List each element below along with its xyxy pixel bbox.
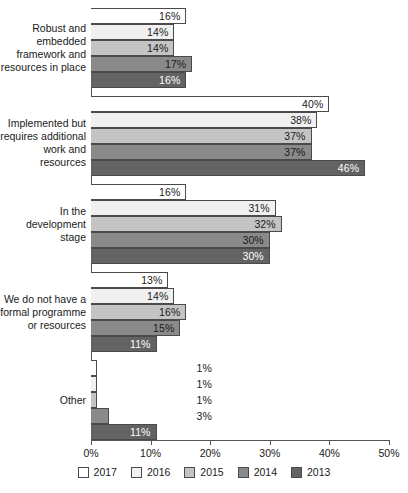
x-axis-tick (329, 440, 330, 445)
bar-value-label: 14% (91, 288, 174, 304)
bar-row: 14% (91, 24, 389, 40)
category-label-line: work and resources (0, 143, 86, 169)
bar-value-label: 13% (91, 272, 168, 288)
bar-value-label: 16% (91, 72, 186, 88)
bar-value-label: 16% (91, 8, 186, 24)
x-axis-line (91, 440, 389, 441)
x-axis-tick-label: 50% (378, 447, 399, 459)
category-label-line: requires additional (0, 130, 86, 143)
bar-value-label: 38% (91, 112, 317, 128)
x-axis-tick-label: 10% (140, 447, 161, 459)
bar-value-label: 1% (197, 376, 212, 392)
bar-value-label: 37% (91, 128, 312, 144)
bar-row: 15% (91, 320, 389, 336)
bar-row: 30% (91, 232, 389, 248)
bar-group: 16%31%32%30%30% (91, 184, 389, 264)
bar-row: 13% (91, 272, 389, 288)
bar-2017 (91, 360, 97, 376)
bar-value-label: 30% (91, 248, 270, 264)
bar-2015 (91, 392, 97, 408)
bar-group: 16%14%14%17%16% (91, 8, 389, 88)
plot-area: 16%14%14%17%16%40%38%37%37%46%16%31%32%3… (91, 8, 389, 440)
bar-row: 16% (91, 184, 389, 200)
bar-row: 11% (91, 424, 389, 440)
category-label-line: development (0, 218, 86, 231)
bar-row: 37% (91, 144, 389, 160)
category-label-line: formal programme (0, 306, 86, 319)
bar-group: 40%38%37%37%46% (91, 96, 389, 176)
bar-row: 16% (91, 8, 389, 24)
bar-row: 14% (91, 40, 389, 56)
category-label-line: stage (0, 231, 86, 244)
bar-value-label: 16% (91, 304, 186, 320)
bar-row: 31% (91, 200, 389, 216)
x-axis-tick-label: 30% (259, 447, 280, 459)
bar-value-label: 1% (197, 392, 212, 408)
legend-item-2013[interactable]: 2013 (291, 466, 330, 478)
bar-row: 1% (91, 360, 389, 376)
bar-row: 38% (91, 112, 389, 128)
bar-2016 (91, 376, 97, 392)
x-axis-tick (270, 440, 271, 445)
legend-item-2015[interactable]: 2015 (184, 466, 223, 478)
legend-item-2014[interactable]: 2014 (238, 466, 277, 478)
category-label-line: Implemented but (0, 117, 86, 130)
bar-value-label: 11% (91, 424, 157, 440)
category-label: Other (0, 394, 86, 407)
bar-value-label: 46% (91, 160, 365, 176)
bar-value-label: 31% (91, 200, 276, 216)
x-axis-tick (210, 440, 211, 445)
category-label-line: We do not have a (0, 293, 86, 306)
x-axis-tick (91, 440, 92, 445)
bar-group: 1%1%1%3%11% (91, 360, 389, 440)
bar-value-label: 30% (91, 232, 270, 248)
bar-row: 1% (91, 392, 389, 408)
category-label-line: framework and (0, 48, 86, 61)
chart-legend: 20172016201520142013 (0, 466, 408, 478)
legend-label: 2017 (94, 466, 117, 478)
legend-label: 2013 (307, 466, 330, 478)
bar-row: 46% (91, 160, 389, 176)
x-axis-tick (389, 440, 390, 445)
bar-value-label: 37% (91, 144, 312, 160)
legend-swatch-icon (184, 467, 195, 478)
bar-value-label: 11% (91, 336, 157, 352)
legend-item-2016[interactable]: 2016 (131, 466, 170, 478)
legend-swatch-icon (291, 467, 302, 478)
category-label-line: embedded (0, 35, 86, 48)
legend-label: 2016 (147, 466, 170, 478)
x-axis-tick (151, 440, 152, 445)
bar-row: 16% (91, 72, 389, 88)
legend-item-2017[interactable]: 2017 (78, 466, 117, 478)
category-label-line: resources in place (0, 61, 86, 74)
bar-value-label: 1% (197, 360, 212, 376)
category-label-line: Robust and (0, 22, 86, 35)
bar-row: 16% (91, 304, 389, 320)
category-axis-labels: Robust andembeddedframework andresources… (0, 8, 86, 440)
x-axis-tick-label: 20% (200, 447, 221, 459)
bar-row: 17% (91, 56, 389, 72)
legend-swatch-icon (78, 467, 89, 478)
x-axis-tick-label: 40% (319, 447, 340, 459)
bar-row: 14% (91, 288, 389, 304)
bar-value-label: 3% (197, 408, 212, 424)
bar-value-label: 14% (91, 40, 174, 56)
category-label: Implemented butrequires additionalwork a… (0, 117, 86, 169)
bar-value-label: 17% (91, 56, 192, 72)
category-label: We do not have aformal programmeor resou… (0, 293, 86, 332)
bar-value-label: 16% (91, 184, 186, 200)
bar-row: 40% (91, 96, 389, 112)
bar-value-label: 32% (91, 216, 282, 232)
bar-row: 30% (91, 248, 389, 264)
category-label-line: or resources (0, 319, 86, 332)
bar-2014 (91, 408, 109, 424)
category-label-line: In the (0, 205, 86, 218)
bar-value-label: 14% (91, 24, 174, 40)
legend-label: 2014 (254, 466, 277, 478)
legend-swatch-icon (238, 467, 249, 478)
category-label-line: Other (0, 394, 86, 407)
bar-value-label: 15% (91, 320, 180, 336)
category-label: Robust andembeddedframework andresources… (0, 22, 86, 74)
bar-row: 1% (91, 376, 389, 392)
bar-row: 32% (91, 216, 389, 232)
